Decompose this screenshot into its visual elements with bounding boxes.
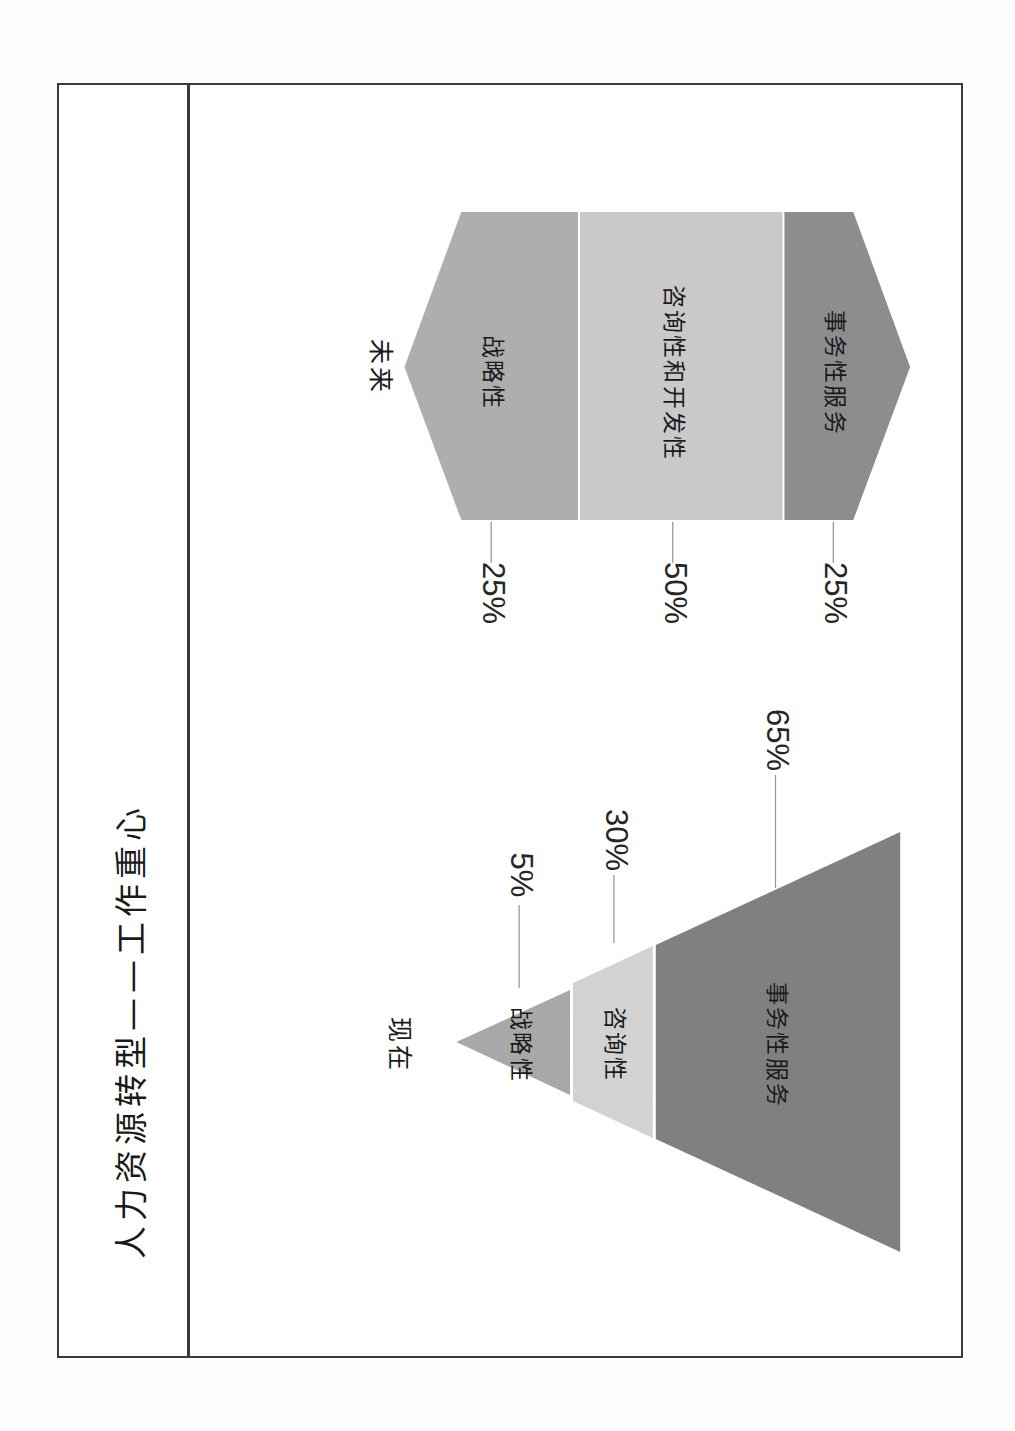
current-label-consulting: 咨询性 xyxy=(602,1007,628,1082)
current-diagram: 战略性 咨询性 事务性服务 5% 30% 65% 现在 xyxy=(385,709,900,1252)
diagram-canvas: 战略性 咨询性和开发性 事务性服务 25% 50% 25% 未来 xyxy=(187,85,961,1356)
future-pct-consulting: 50% xyxy=(658,562,693,624)
current-label-strategic: 战略性 xyxy=(508,1007,534,1082)
diagram-svg: 战略性 咨询性和开发性 事务性服务 25% 50% 25% 未来 xyxy=(187,85,961,1356)
future-stage-label: 未来 xyxy=(366,339,395,395)
future-pct-strategic: 25% xyxy=(476,562,511,624)
future-label-strategic: 战略性 xyxy=(480,335,506,410)
future-label-transactional: 事务性服务 xyxy=(822,310,848,435)
slide-frame: 人力资源转型——工作重心 战略性 咨询性和开发性 事务性服务 xyxy=(57,83,963,1358)
future-diagram: 战略性 咨询性和开发性 事务性服务 25% 50% 25% 未来 xyxy=(366,212,911,624)
future-label-consulting: 咨询性和开发性 xyxy=(661,285,687,460)
current-label-transactional: 事务性服务 xyxy=(764,982,790,1107)
current-pct-transactional: 65% xyxy=(760,709,795,771)
current-pct-consulting: 30% xyxy=(599,809,634,871)
current-pct-strategic: 5% xyxy=(504,853,539,898)
page-title: 人力资源转型——工作重心 xyxy=(105,79,153,1259)
future-pct-transactional: 25% xyxy=(818,562,853,624)
current-stage-label: 现在 xyxy=(385,1017,414,1073)
